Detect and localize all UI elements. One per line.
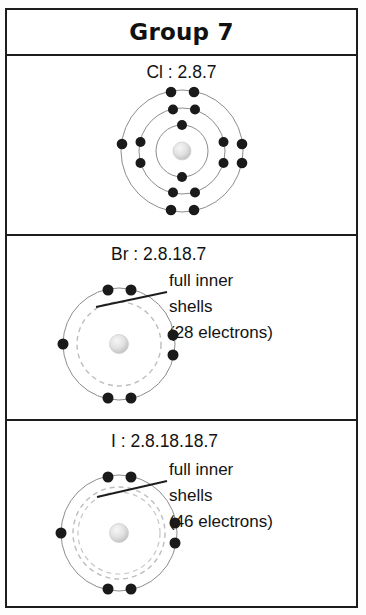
- page-title: Group 7: [7, 10, 356, 54]
- electron: [168, 350, 179, 361]
- electron: [166, 205, 177, 216]
- electron: [237, 158, 248, 169]
- electron: [177, 172, 187, 182]
- electron: [103, 393, 114, 404]
- electron: [219, 158, 229, 168]
- electron: [103, 584, 114, 595]
- electron: [126, 584, 137, 595]
- bromine-atom-diagram: [7, 236, 356, 417]
- element-row-bromine: Br : 2.8.18.7 full inner shells (28 elec…: [7, 236, 356, 421]
- electron: [166, 87, 177, 98]
- group7-table: Group 7 Cl : 2.8.7: [5, 8, 358, 608]
- electron: [189, 87, 200, 98]
- electron: [170, 518, 181, 529]
- electron: [136, 158, 146, 168]
- electron: [103, 472, 114, 483]
- electron: [126, 393, 137, 404]
- electron: [168, 330, 179, 341]
- electron: [56, 528, 67, 539]
- electron: [126, 285, 137, 296]
- electron: [117, 139, 128, 150]
- electron: [177, 120, 187, 130]
- electron: [58, 339, 69, 350]
- electron: [237, 139, 248, 150]
- chlorine-atom-diagram: [7, 56, 356, 232]
- electron: [190, 105, 200, 115]
- electron: [126, 472, 137, 483]
- element-row-iodine: I : 2.8.18.18.7 full inner shells (46 el…: [7, 421, 356, 606]
- electron: [168, 105, 178, 115]
- nucleus: [173, 142, 191, 160]
- table-header-row: Group 7: [7, 10, 356, 56]
- electron: [168, 188, 178, 198]
- nucleus: [110, 524, 129, 543]
- electron: [190, 188, 200, 198]
- electron: [170, 538, 181, 549]
- electron: [189, 205, 200, 216]
- element-row-chlorine: Cl : 2.8.7: [7, 56, 356, 236]
- electron: [219, 137, 229, 147]
- iodine-atom-diagram: [7, 421, 356, 602]
- diagram-sheet: Group 7 Cl : 2.8.7: [0, 0, 366, 615]
- nucleus: [110, 335, 129, 354]
- electron: [136, 137, 146, 147]
- electron: [103, 285, 114, 296]
